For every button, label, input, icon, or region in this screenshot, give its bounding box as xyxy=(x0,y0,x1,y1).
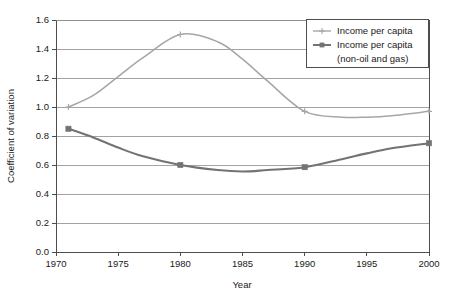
data-marker-cross xyxy=(426,108,432,114)
y-tick-label: 1.4 xyxy=(36,43,49,54)
x-tick-label: 2000 xyxy=(418,258,439,269)
x-axis-title: Year xyxy=(232,279,251,290)
x-tick-label: 1970 xyxy=(45,258,66,269)
data-marker-square xyxy=(426,141,431,146)
y-tick-label: 1.6 xyxy=(36,14,49,25)
data-marker-cross xyxy=(177,32,183,38)
data-marker-square xyxy=(178,162,183,167)
y-axis-ticks: 0.00.20.40.60.81.01.21.41.6 xyxy=(36,14,56,257)
chart-legend[interactable]: Income per capitaIncome per capita(non-o… xyxy=(306,19,428,67)
data-marker-cross xyxy=(65,104,71,110)
y-axis-title: Coefficient of variation xyxy=(5,89,16,183)
y-tick-label: 1.0 xyxy=(36,101,49,112)
x-tick-label: 1995 xyxy=(356,258,377,269)
legend-label-1[interactable]: Income per capita xyxy=(337,25,413,36)
legend-label-2[interactable]: Income per capita xyxy=(337,39,413,50)
x-axis-ticks: 1970197519801985199019952000 xyxy=(45,252,439,269)
x-tick-label: 1985 xyxy=(232,258,253,269)
x-tick-label: 1975 xyxy=(108,258,129,269)
line-chart: 0.00.20.40.60.81.01.21.41.6 197019751980… xyxy=(0,0,452,299)
y-tick-label: 0.4 xyxy=(36,188,49,199)
legend-label-2-line2[interactable]: (non-oil and gas) xyxy=(337,53,408,64)
data-marker-square xyxy=(66,126,71,131)
legend-marker-square xyxy=(320,43,325,48)
y-tick-label: 0.2 xyxy=(36,217,49,228)
chart-container: 0.00.20.40.60.81.01.21.41.6 197019751980… xyxy=(0,0,452,299)
y-tick-label: 0.8 xyxy=(36,130,49,141)
data-marker-cross xyxy=(302,108,308,114)
data-marker-square xyxy=(302,165,307,170)
y-tick-label: 0.6 xyxy=(36,159,49,170)
y-tick-label: 0.0 xyxy=(36,246,49,257)
x-tick-label: 1990 xyxy=(294,258,315,269)
x-tick-label: 1980 xyxy=(170,258,191,269)
y-tick-label: 1.2 xyxy=(36,72,49,83)
